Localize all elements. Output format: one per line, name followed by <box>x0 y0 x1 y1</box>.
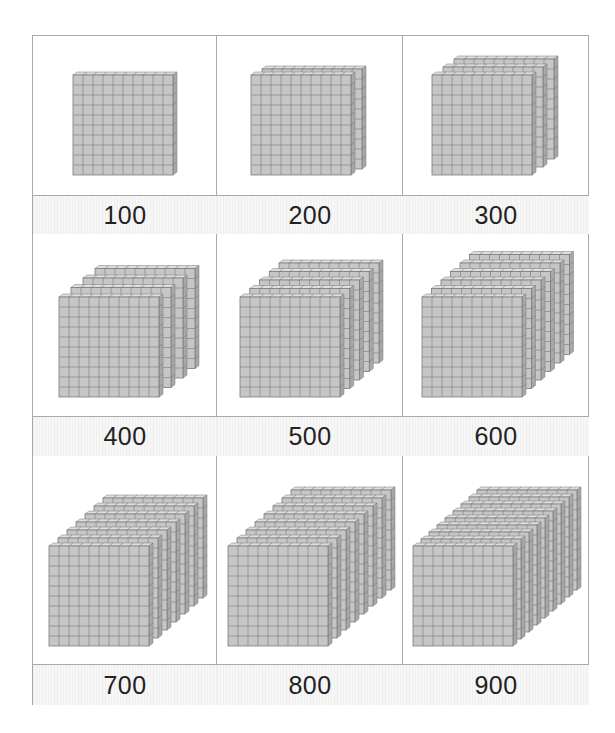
block-stack-700 <box>49 495 207 646</box>
block-stack-400 <box>59 266 199 398</box>
hundred-flat <box>49 543 153 646</box>
base-ten-blocks-drawing <box>0 0 615 733</box>
hundred-flat <box>240 294 344 397</box>
block-stack-300 <box>432 56 558 175</box>
hundred-flat <box>413 543 517 646</box>
hundred-flat <box>228 543 332 646</box>
hundred-flat <box>432 72 536 175</box>
hundred-flat <box>422 294 526 397</box>
block-stack-200 <box>251 66 366 175</box>
block-stack-500 <box>240 260 383 397</box>
block-stack-600 <box>422 252 574 398</box>
block-stack-800 <box>228 487 395 646</box>
block-stack-900 <box>413 487 581 646</box>
block-stack-100 <box>73 72 177 175</box>
hundred-flat <box>251 72 355 175</box>
hundred-flat <box>59 294 163 397</box>
hundred-flat <box>73 72 177 175</box>
